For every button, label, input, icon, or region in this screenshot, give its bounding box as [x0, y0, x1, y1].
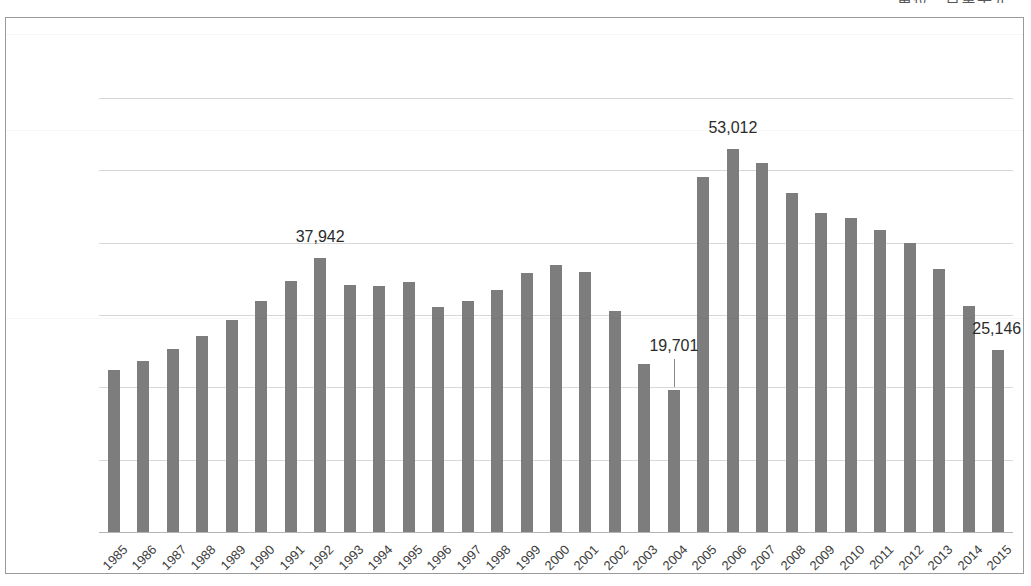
data-label-2006: 53,012 [708, 119, 757, 137]
bar-2003[interactable] [638, 364, 650, 532]
bar-1990[interactable] [255, 301, 267, 532]
unit-caption: 單位：百萬美元 [897, 0, 1009, 3]
leader-line-2004 [674, 359, 675, 387]
bar-2015[interactable] [992, 350, 1004, 532]
bar-2000[interactable] [550, 265, 562, 532]
bar-1989[interactable] [226, 320, 238, 532]
bar-2008[interactable] [786, 193, 798, 532]
bar-1996[interactable] [432, 307, 444, 532]
bar-2011[interactable] [874, 230, 886, 532]
bar-1994[interactable] [373, 286, 385, 532]
chart-frame: 60,00050,00040,00030,00020,00010,0000 19… [5, 17, 1024, 574]
bar-1987[interactable] [167, 349, 179, 532]
data-label-2004: 19,701 [649, 337, 698, 355]
gridline-50000 [99, 170, 1013, 171]
bar-2002[interactable] [609, 311, 621, 532]
bar-1998[interactable] [491, 290, 503, 532]
bar-1995[interactable] [403, 282, 415, 532]
bar-2006[interactable] [727, 149, 739, 532]
bar-2009[interactable] [815, 213, 827, 532]
data-label-2015: 25,146 [972, 320, 1021, 338]
bar-1988[interactable] [196, 336, 208, 532]
bar-2010[interactable] [845, 218, 857, 532]
bar-1986[interactable] [137, 361, 149, 532]
bar-1997[interactable] [462, 301, 474, 532]
bar-1985[interactable] [108, 370, 120, 532]
bar-2012[interactable] [904, 243, 916, 532]
bar-2013[interactable] [933, 269, 945, 532]
bar-2014[interactable] [963, 306, 975, 532]
bar-1993[interactable] [344, 285, 356, 532]
bar-2005[interactable] [697, 177, 709, 532]
data-label-1992: 37,942 [296, 228, 345, 246]
bar-1999[interactable] [521, 273, 533, 532]
plot-area: 60,00050,00040,00030,00020,00010,0000 19… [99, 98, 1013, 532]
bar-1992[interactable] [314, 258, 326, 532]
gridline-60000 [99, 98, 1013, 99]
bar-2001[interactable] [579, 272, 591, 532]
gridline-0 [99, 532, 1013, 533]
bar-2007[interactable] [756, 163, 768, 532]
bar-2004[interactable] [668, 390, 680, 533]
